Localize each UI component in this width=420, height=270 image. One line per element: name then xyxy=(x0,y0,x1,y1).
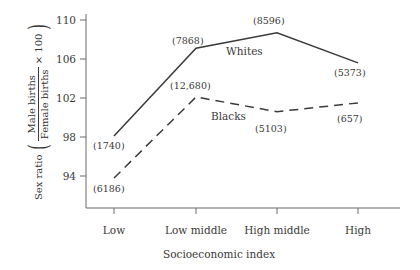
point-label-blacks-high: (657) xyxy=(337,114,363,124)
point-label-whites-low: (1740) xyxy=(93,141,125,151)
y-axis-denominator: Female births xyxy=(39,67,51,141)
y-axis-title-prefix: Sex ratio xyxy=(33,154,44,200)
y-axis-ratio-fraction: Male births Female births xyxy=(26,67,50,141)
y-axis-multiplier: × 100 xyxy=(33,34,44,65)
series-label-blacks: Blacks xyxy=(211,111,246,122)
y-axis-title: Sex ratio ( Male births Female births × … xyxy=(8,0,68,200)
point-label-blacks-low: (6186) xyxy=(93,184,125,194)
chart-figure: 110 106 102 98 94 Low Low middle High mi… xyxy=(0,0,420,270)
y-tick-marks xyxy=(80,20,86,176)
point-label-blacks-low-middle: (12,680) xyxy=(170,81,211,91)
x-tick-label-high-middle: High middle xyxy=(235,225,319,236)
x-tick-label-high: High xyxy=(334,225,382,236)
point-label-whites-high-middle: (8596) xyxy=(253,16,285,26)
x-tick-label-low: Low xyxy=(90,225,138,236)
series-label-whites: Whites xyxy=(226,46,263,57)
x-tick-marks xyxy=(114,208,358,214)
point-label-whites-high: (5373) xyxy=(334,68,366,78)
point-label-blacks-high-middle: (5103) xyxy=(255,124,287,134)
y-axis-numerator: Male births xyxy=(26,73,38,135)
x-axis-title: Socioeconomic index xyxy=(163,249,275,260)
point-label-whites-low-middle: (7868) xyxy=(172,36,204,46)
x-tick-label-low-middle: Low middle xyxy=(156,225,236,236)
